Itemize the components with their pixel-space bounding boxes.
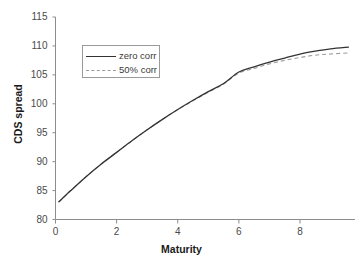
legend-label-50-corr: 50% corr <box>119 64 157 75</box>
y-tick-label: 80 <box>22 214 48 225</box>
cds-spread-line-chart: 80859095100105110115 02468 Maturity CDS … <box>0 0 363 266</box>
y-tick-label: 90 <box>22 156 48 167</box>
y-tick-label: 85 <box>22 185 48 196</box>
legend-swatch-dashed-icon <box>86 65 116 75</box>
x-axis-tick-marks <box>56 220 300 224</box>
x-tick-label: 0 <box>46 226 66 237</box>
legend-entry-zero-corr: zero corr <box>83 48 161 63</box>
x-tick-label: 4 <box>168 226 188 237</box>
y-tick-label: 95 <box>22 127 48 138</box>
y-axis-title: CDS spread <box>12 74 24 154</box>
y-tick-label: 100 <box>22 98 48 109</box>
y-tick-label: 115 <box>22 11 48 22</box>
y-tick-label: 110 <box>22 40 48 51</box>
chart-legend: zero corr 50% corr <box>82 45 160 78</box>
legend-label-zero-corr: zero corr <box>119 50 156 61</box>
x-tick-label: 2 <box>107 226 127 237</box>
x-tick-label: 8 <box>290 226 310 237</box>
x-tick-label: 6 <box>229 226 249 237</box>
legend-entry-50-corr: 50% corr <box>83 62 161 77</box>
legend-swatch-solid-icon <box>86 51 116 61</box>
y-tick-label: 105 <box>22 69 48 80</box>
x-axis-title: Maturity <box>0 243 363 255</box>
